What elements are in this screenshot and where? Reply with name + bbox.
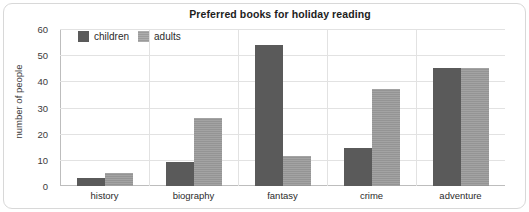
category-separator	[416, 29, 417, 186]
legend-swatch-adults-icon	[138, 31, 149, 42]
x-tick-label-fantasy: fantasy	[267, 190, 298, 201]
chart-title: Preferred books for holiday reading	[60, 8, 500, 20]
x-tick-label-history: history	[91, 190, 119, 201]
y-tick-label: 20	[37, 128, 48, 139]
x-tick-label-adventure: adventure	[439, 190, 481, 201]
category-separator	[238, 29, 239, 186]
y-tick-label: 40	[37, 76, 48, 87]
x-tick-label-biography: biography	[173, 190, 215, 201]
y-tick-label: 50	[37, 50, 48, 61]
chart-legend: children adults	[78, 31, 181, 42]
plot-area	[60, 29, 505, 186]
y-axis-tick-labels: 0102030405060	[0, 29, 55, 186]
category-separator	[149, 29, 150, 186]
bar-adventure-adults	[461, 68, 489, 186]
bar-history-adults	[105, 173, 133, 186]
legend-item-children: children	[78, 31, 129, 42]
bar-biography-adults	[194, 118, 222, 186]
x-tick-label-crime: crime	[360, 190, 383, 201]
legend-item-adults: adults	[138, 31, 181, 42]
bar-biography-children	[166, 162, 194, 186]
gridline-60	[60, 29, 505, 30]
bar-history-children	[77, 178, 105, 186]
gridline-50	[60, 55, 505, 56]
legend-label-adults: adults	[154, 31, 181, 42]
y-tick-label: 30	[37, 102, 48, 113]
y-tick-label: 0	[43, 181, 48, 192]
bar-fantasy-adults	[283, 156, 311, 186]
legend-label-children: children	[94, 31, 129, 42]
category-separator	[327, 29, 328, 186]
chart-figure: Preferred books for holiday reading numb…	[0, 0, 529, 212]
y-tick-label: 60	[37, 24, 48, 35]
bar-crime-adults	[372, 89, 400, 186]
bar-fantasy-children	[255, 45, 283, 186]
y-tick-label: 10	[37, 154, 48, 165]
bar-crime-children	[344, 148, 372, 186]
legend-swatch-children-icon	[78, 31, 89, 42]
bar-adventure-children	[433, 68, 461, 186]
